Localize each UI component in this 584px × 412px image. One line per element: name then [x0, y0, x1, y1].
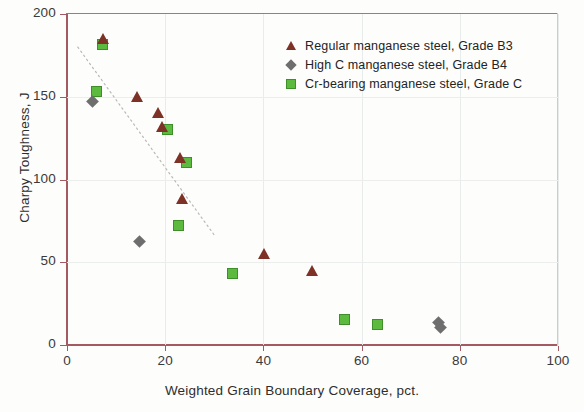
legend-item-c[interactable]: Cr-bearing manganese steel, Grade C — [283, 74, 522, 93]
data-point-square — [227, 268, 238, 279]
square-marker-icon — [283, 79, 299, 89]
y-tick-label: 0 — [8, 336, 56, 351]
y-axis-tick — [60, 97, 67, 98]
y-axis-tick — [60, 14, 67, 15]
x-axis-tick — [558, 346, 559, 351]
y-gridline — [67, 262, 558, 263]
data-point-triangle — [306, 265, 318, 276]
y-tick-label: 200 — [8, 5, 56, 20]
triangle-marker-icon — [283, 41, 299, 50]
y-axis-tick — [60, 180, 67, 181]
x-tick-label: 60 — [332, 353, 392, 368]
data-point-triangle — [152, 107, 164, 118]
legend-label-b3: Regular manganese steel, Grade B3 — [305, 39, 513, 53]
y-tick-label: 100 — [8, 171, 56, 186]
data-point-diamond — [434, 322, 447, 335]
x-tick-label: 100 — [528, 353, 584, 368]
diamond-marker-icon — [283, 61, 299, 69]
legend-item-b3[interactable]: Regular manganese steel, Grade B3 — [283, 36, 522, 55]
y-axis-tick — [60, 345, 67, 346]
x-axis-tick — [263, 346, 264, 351]
plot-top-border — [66, 13, 558, 14]
x-axis-tick — [362, 346, 363, 351]
y-tick-label: 50 — [8, 253, 56, 268]
x-axis-tick — [460, 346, 461, 351]
data-point-triangle — [131, 91, 143, 102]
x-tick-label: 20 — [135, 353, 195, 368]
data-point-triangle — [176, 193, 188, 204]
x-tick-label: 40 — [233, 353, 293, 368]
legend-item-b4[interactable]: High C manganese steel, Grade B4 — [283, 55, 522, 74]
data-point-triangle — [258, 248, 270, 259]
x-axis-title: Weighted Grain Boundary Coverage, pct. — [0, 383, 584, 398]
data-point-diamond — [133, 236, 146, 249]
data-point-square — [173, 220, 184, 231]
x-axis-tick — [67, 346, 68, 351]
x-axis-line — [66, 344, 558, 346]
data-point-triangle — [156, 121, 168, 132]
y-gridline — [67, 180, 558, 181]
x-gridline — [558, 14, 559, 345]
legend-label-b4: High C manganese steel, Grade B4 — [305, 58, 507, 72]
x-tick-label: 80 — [430, 353, 490, 368]
data-point-square — [372, 319, 383, 330]
chart-figure: Charpy Toughness, J 02040608010005010015… — [0, 0, 584, 412]
chart-legend: Regular manganese steel, Grade B3 High C… — [283, 36, 522, 93]
y-axis-tick — [60, 262, 67, 263]
data-point-triangle — [174, 152, 186, 163]
x-tick-label: 0 — [37, 353, 97, 368]
data-point-triangle — [97, 33, 109, 44]
data-point-square — [339, 314, 350, 325]
legend-label-c: Cr-bearing manganese steel, Grade C — [305, 77, 522, 91]
y-tick-label: 150 — [8, 88, 56, 103]
x-axis-tick — [165, 346, 166, 351]
